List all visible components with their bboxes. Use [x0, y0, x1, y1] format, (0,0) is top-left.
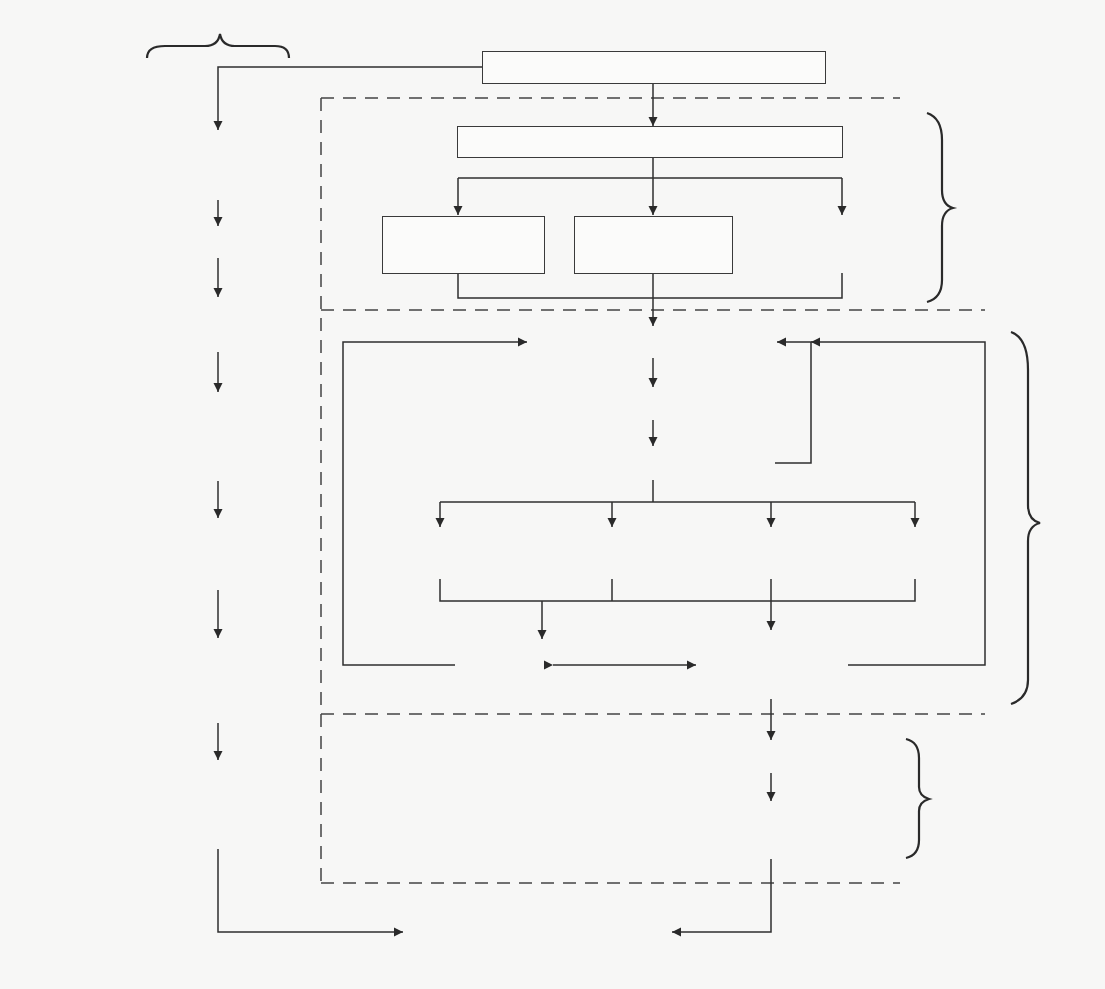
chapter-flowchart: [0, 0, 1105, 989]
node-ch3: [382, 216, 545, 274]
brace-legal: [147, 34, 289, 58]
brace-manufacturing: [906, 739, 929, 858]
node-ch1: [482, 51, 826, 84]
brace-program: [927, 113, 953, 302]
node-ch4: [574, 216, 733, 274]
brace-design: [1011, 332, 1040, 704]
node-ch2: [457, 126, 843, 158]
